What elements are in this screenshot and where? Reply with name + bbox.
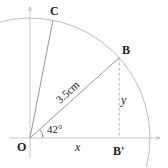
radius-label: 3.5cm [53,78,82,105]
point-label-b: B [122,43,130,57]
angle-arc [40,129,43,138]
point-label-b-prime: B' [113,144,124,158]
angle-label: 42° [47,123,62,135]
y-label: y [120,93,127,107]
point-label-o: O [17,140,26,154]
x-label: x [74,140,81,154]
point-label-c: C [50,4,59,18]
diagram-canvas: O B B' C 3.5cm 42° x y [0,0,168,168]
